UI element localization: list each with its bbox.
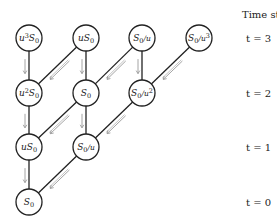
edge-n11-n00 [38, 156, 76, 193]
tree-node-n21: S0 [73, 80, 99, 106]
arrow-icon [23, 114, 27, 128]
time-label-t0: t = 0 [246, 197, 271, 208]
tree-node-n11: S0/u [73, 134, 99, 160]
tree-canvas: u3S0uS0S0/uS0/u3u2S0S0S0/u2uS0S0/uS0 Tim… [0, 0, 277, 224]
edges-layer [29, 47, 190, 193]
time-label-t2: t = 2 [246, 88, 271, 99]
time-labels-layer: Time step t = 3t = 2t = 1t = 0 [242, 9, 277, 208]
arrow-icon [23, 168, 27, 183]
edge-n31-n20 [38, 47, 76, 84]
tree-node-n10: uS0 [16, 134, 42, 160]
arrow-icon [49, 169, 69, 189]
arrow-icon [49, 115, 69, 134]
tree-node-n31: uS0 [73, 25, 99, 51]
edge-n22-n11 [95, 102, 132, 138]
tree-node-n20: u2S0 [16, 80, 42, 106]
arrows-layer [23, 59, 182, 188]
arrow-icon [49, 60, 69, 80]
tree-node-n33: S0/u3 [186, 25, 212, 51]
arrow-icon [80, 114, 84, 128]
arrow-icon [106, 60, 126, 80]
time-label-t1: t = 1 [246, 142, 271, 153]
arrow-icon [162, 60, 182, 80]
tree-node-n32: S0/u [129, 25, 155, 51]
tree-node-n30: u3S0 [16, 25, 42, 51]
arrow-icon [80, 59, 84, 74]
arrow-icon [23, 59, 27, 74]
edge-n33-n22 [151, 47, 189, 84]
time-step-header: Time step [242, 9, 277, 20]
time-label-t3: t = 3 [246, 33, 271, 44]
binomial-tree-diagram: u3S0uS0S0/uS0/u3u2S0S0S0/u2uS0S0/uS0 Tim… [0, 0, 277, 224]
arrow-icon [136, 59, 140, 74]
edge-n21-n10 [38, 102, 76, 138]
tree-node-n00: S0 [16, 189, 42, 215]
edge-n32-n21 [95, 47, 132, 84]
tree-node-n22: S0/u2 [129, 80, 155, 106]
